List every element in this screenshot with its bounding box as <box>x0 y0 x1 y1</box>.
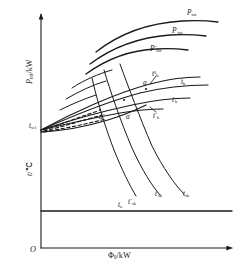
y-axis-lower-label: t/℃ <box>26 162 34 176</box>
label-tsk-2: t″sk <box>128 198 136 207</box>
label-point-a2: a″ <box>99 113 105 120</box>
diagram-drawing <box>0 0 245 268</box>
label-tk-0: t0k <box>152 70 159 79</box>
label-point-a: a <box>143 79 147 86</box>
curve-dashed-1 <box>44 111 98 130</box>
label-tsk-1: t′sk <box>155 190 162 199</box>
label-p-tot: Ptot <box>187 9 196 18</box>
point-a2-marker <box>99 109 101 111</box>
curve-tsk-1 <box>104 70 160 195</box>
origin-label: O <box>30 246 36 254</box>
label-p-tot-1: P′tot <box>172 27 182 36</box>
label-p-tot-2: P″tot <box>150 45 161 54</box>
label-t-w1: tw1 <box>29 122 37 131</box>
point-a-marker <box>145 88 147 90</box>
curve-arc-2 <box>66 81 106 99</box>
label-tk: tk <box>181 78 185 87</box>
label-tk-1: t′k <box>172 96 177 105</box>
point-a1-marker <box>123 99 125 101</box>
y-axis-upper-label: Ptot/kW <box>26 60 34 85</box>
curve-arc-3 <box>60 95 96 110</box>
curve-p-tot-2 <box>86 49 188 74</box>
label-point-a1: a′ <box>126 113 131 120</box>
figure-canvas: Ptot P′tot P″tot t0k tk t′k t″k a a′ a″ … <box>0 0 245 268</box>
label-tsk: tsk <box>183 190 189 199</box>
label-tk-2: t″k <box>153 112 159 121</box>
label-t-a: ta <box>118 201 122 210</box>
x-axis-label: Φ0/kW <box>108 252 131 260</box>
